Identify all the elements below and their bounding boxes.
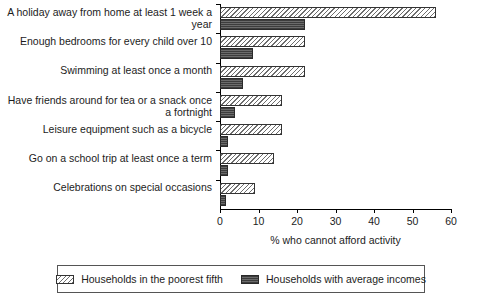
bar-poorest-fifth [220, 153, 274, 164]
y-axis-tick [216, 33, 220, 34]
bar-average-incomes [220, 48, 253, 59]
category-label: A holiday away from home at least 1 week… [0, 6, 212, 31]
bar-average-incomes [220, 78, 243, 89]
x-axis-tick [220, 209, 221, 213]
legend-entry-poorest: Households in the poorest fifth [56, 273, 223, 285]
x-axis-tick-label: 10 [244, 215, 274, 227]
x-axis-tick [374, 209, 375, 213]
x-axis-tick [297, 209, 298, 213]
bar-chart: A holiday away from home at least 1 week… [0, 0, 480, 303]
bar-average-incomes [220, 107, 235, 118]
bar-average-incomes [220, 165, 228, 176]
legend-label-average: Households with average incomes [266, 273, 426, 285]
x-axis-tick [413, 209, 414, 213]
y-axis-tick [216, 150, 220, 151]
legend-swatch-poorest-icon [56, 275, 74, 284]
x-axis-tick-label: 60 [436, 215, 466, 227]
y-axis-tick [216, 121, 220, 122]
x-axis-tick [451, 209, 452, 213]
bar-poorest-fifth [220, 66, 305, 77]
bar-poorest-fifth [220, 95, 282, 106]
x-axis-tick-label: 0 [205, 215, 235, 227]
y-axis-tick [216, 92, 220, 93]
x-axis-tick-label: 40 [359, 215, 389, 227]
x-axis-tick [259, 209, 260, 213]
y-axis-tick [216, 180, 220, 181]
category-label: Celebrations on special occasions [0, 181, 212, 194]
category-label: Swimming at least once a month [0, 64, 212, 77]
chart-legend: Households in the poorest fifth Househol… [57, 265, 425, 293]
bar-average-incomes [220, 19, 305, 30]
bar-poorest-fifth [220, 124, 282, 135]
bar-average-incomes [220, 195, 226, 206]
x-axis-title: % who cannot afford activity [220, 234, 451, 246]
bar-poorest-fifth [220, 7, 436, 18]
category-label: Go on a school trip at least once a term [0, 152, 212, 165]
x-axis-tick-label: 50 [398, 215, 428, 227]
x-axis-tick-label: 20 [282, 215, 312, 227]
bar-poorest-fifth [220, 183, 255, 194]
x-axis-tick-label: 30 [321, 215, 351, 227]
legend-entry-average: Households with average incomes [241, 273, 426, 285]
y-axis-tick [216, 4, 220, 5]
category-label: Enough bedrooms for every child over 10 [0, 35, 212, 48]
category-label: Leisure equipment such as a bicycle [0, 123, 212, 136]
x-axis-tick [336, 209, 337, 213]
y-axis-tick [216, 63, 220, 64]
category-label: Have friends around for tea or a snack o… [0, 94, 212, 119]
legend-swatch-average-icon [241, 275, 259, 284]
legend-label-poorest: Households in the poorest fifth [81, 273, 223, 285]
bar-poorest-fifth [220, 36, 305, 47]
bar-average-incomes [220, 136, 228, 147]
